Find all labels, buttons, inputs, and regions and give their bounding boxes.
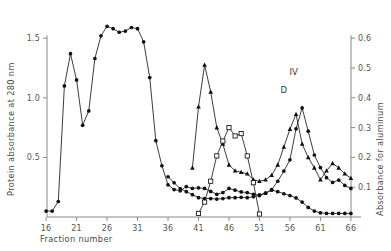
data-point-marker xyxy=(239,190,243,194)
data-point-marker xyxy=(214,125,219,129)
x-tick-label: 51 xyxy=(254,224,265,233)
data-point-marker xyxy=(331,181,335,185)
data-point-marker xyxy=(196,104,201,108)
right-axis-ticks: 0.10.20.30.40.50.6 xyxy=(351,34,371,192)
data-point-marker xyxy=(202,63,207,67)
data-point-marker xyxy=(160,164,164,168)
peak-annotation-layer: CDIV xyxy=(197,0,298,95)
data-point-marker xyxy=(270,188,274,192)
data-point-marker xyxy=(215,193,219,197)
data-point-marker xyxy=(300,106,304,110)
data-point-marker xyxy=(178,187,182,191)
peak-label-iv: IV xyxy=(289,67,298,77)
data-point-marker xyxy=(306,155,311,159)
x-tick-label: 21 xyxy=(71,224,82,233)
data-point-marker xyxy=(197,186,201,190)
x-tick-label: 26 xyxy=(102,224,113,233)
data-point-marker xyxy=(245,191,249,195)
data-point-marker xyxy=(215,197,219,201)
y2-tick-label: 0.4 xyxy=(358,94,371,103)
x-tick-label: 16 xyxy=(41,224,52,233)
series-line xyxy=(46,26,351,211)
data-point-marker xyxy=(184,190,188,194)
data-point-marker xyxy=(331,212,335,216)
data-point-marker xyxy=(56,200,60,204)
data-point-marker xyxy=(166,183,170,187)
data-point-marker xyxy=(330,161,335,165)
data-point-marker xyxy=(263,177,268,181)
series-line xyxy=(192,65,351,181)
data-point-marker xyxy=(288,194,292,198)
data-point-marker xyxy=(63,84,67,88)
data-point-marker xyxy=(245,196,249,200)
data-point-marker xyxy=(227,126,231,130)
series-line xyxy=(199,128,260,214)
peak-label-d: D xyxy=(281,85,288,95)
data-point-marker xyxy=(337,212,341,216)
data-point-marker xyxy=(221,139,225,143)
left-axis-ticks: 0.51.01.5 xyxy=(27,34,47,162)
data-point-marker xyxy=(269,173,274,177)
right-y-axis: 0.10.20.30.40.50.6 xyxy=(351,34,371,217)
x-tick-label: 41 xyxy=(193,224,204,233)
y-tick-label: 1.0 xyxy=(27,94,40,103)
data-point-marker xyxy=(312,209,316,213)
data-point-marker xyxy=(264,191,268,195)
data-point-marker xyxy=(50,209,54,213)
data-point-marker xyxy=(319,211,323,215)
data-point-marker xyxy=(336,165,341,169)
data-point-marker xyxy=(300,141,305,145)
y2-axis-title: Absorbance for aluminum xyxy=(375,102,385,216)
data-point-marker xyxy=(294,127,298,131)
left-y-axis: 0.51.01.5 xyxy=(27,34,47,217)
data-point-marker xyxy=(349,176,354,180)
x-tick-label: 56 xyxy=(285,224,296,233)
data-point-marker xyxy=(276,190,280,194)
data-point-marker xyxy=(81,123,85,127)
data-point-marker xyxy=(251,181,255,185)
series-aluminum-open-square xyxy=(196,126,261,217)
data-point-marker xyxy=(306,206,310,210)
data-point-marker xyxy=(282,192,286,196)
data-point-marker xyxy=(130,26,134,30)
data-point-marker xyxy=(203,200,207,204)
data-point-marker xyxy=(105,24,109,28)
data-point-marker xyxy=(325,212,329,216)
y2-tick-label: 0.1 xyxy=(358,183,371,192)
series-protein-absorbance xyxy=(44,24,353,212)
data-point-marker xyxy=(87,109,91,113)
data-point-marker xyxy=(209,197,213,201)
data-point-marker xyxy=(258,194,262,198)
y2-tick-label: 0.3 xyxy=(358,124,371,133)
data-point-marker xyxy=(288,127,293,131)
data-point-marker xyxy=(172,181,176,185)
data-point-marker xyxy=(215,154,219,158)
data-point-marker xyxy=(208,89,213,93)
data-point-marker xyxy=(191,193,195,197)
data-point-marker xyxy=(349,212,353,216)
data-point-marker xyxy=(209,190,213,194)
y-axis-title: Protein absorbance at 280 nm xyxy=(6,62,16,196)
data-point-marker xyxy=(154,139,158,143)
data-point-marker xyxy=(69,52,73,56)
x-axis-title: Fraction number xyxy=(40,234,113,244)
data-point-marker xyxy=(166,175,170,179)
data-point-marker xyxy=(239,131,243,135)
data-point-marker xyxy=(233,196,237,200)
data-point-marker xyxy=(257,212,261,216)
data-point-marker xyxy=(233,134,237,138)
data-point-marker xyxy=(282,144,287,148)
data-point-marker xyxy=(245,154,249,158)
x-axis-ticks: 1621263136414651566166 xyxy=(41,217,356,233)
data-point-marker xyxy=(227,196,231,200)
data-point-marker xyxy=(142,40,146,44)
data-point-marker xyxy=(136,27,140,31)
data-point-marker xyxy=(209,179,213,183)
data-point-marker xyxy=(124,29,128,33)
x-tick-label: 61 xyxy=(315,224,326,233)
y2-tick-label: 0.5 xyxy=(358,64,371,73)
data-point-marker xyxy=(221,191,225,195)
data-point-marker xyxy=(172,188,176,192)
data-point-marker xyxy=(252,195,256,199)
data-point-marker xyxy=(184,185,188,189)
